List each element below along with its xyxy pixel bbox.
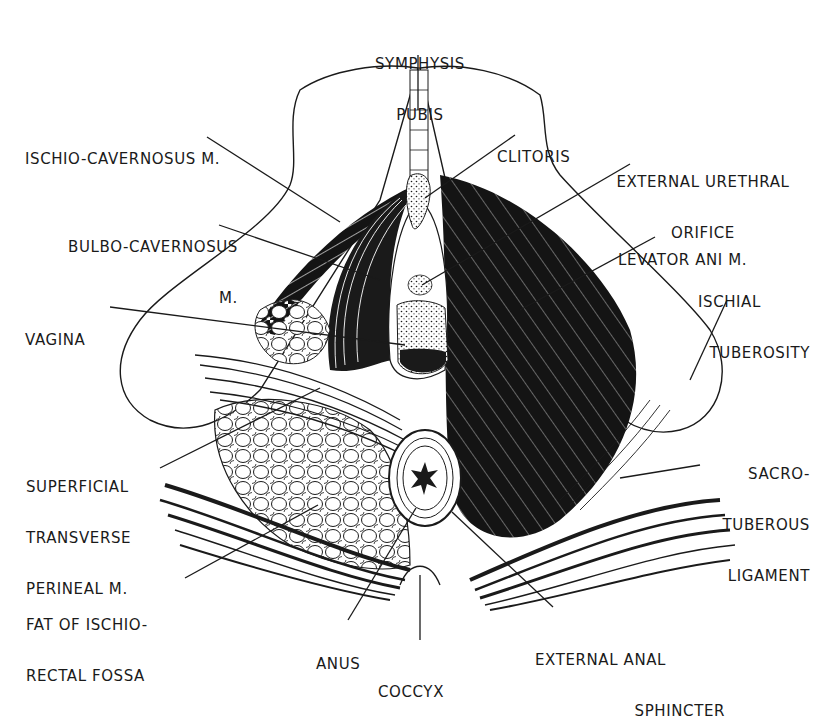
label-external-anal-sphincter: EXTERNAL ANAL SPHINCTER: [535, 618, 725, 720]
label-clitoris: CLITORIS: [497, 115, 570, 183]
label-symphysis-pubis: SYMPHYSIS PUBIS: [362, 22, 478, 141]
urethral-orifice-shape: [408, 275, 432, 295]
label-coccyx: COCCYX: [378, 650, 444, 718]
label-vagina: VAGINA: [25, 298, 85, 366]
ischiorectal-fat: [215, 400, 410, 569]
label-ischial-tuberosity: ISCHIAL TUBEROSITY: [690, 260, 810, 379]
label-sacrotuberous-ligament: SACRO- TUBEROUS LIGAMENT: [700, 432, 810, 602]
label-anus: ANUS: [316, 622, 360, 690]
label-fat-ischiorectal-fossa: FAT OF ISCHIO- RECTAL FOSSA: [26, 583, 148, 702]
label-ischio-cavernosus: ISCHIO-CAVERNOSUS M.: [25, 117, 220, 185]
